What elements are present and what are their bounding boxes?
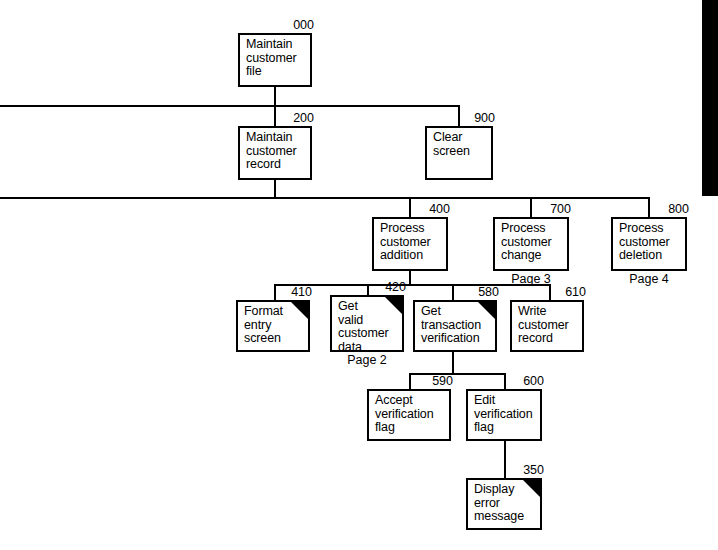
module-number-610: 610 bbox=[510, 286, 586, 299]
module-number-350: 350 bbox=[466, 464, 544, 477]
module-text-600: Edit verification flag bbox=[474, 394, 536, 435]
module-box-420[interactable]: Get valid customer data bbox=[330, 295, 404, 352]
structure-chart-canvas: 000Maintain customer file200Maintain cus… bbox=[0, 0, 718, 550]
connector-v-580-down bbox=[452, 352, 454, 373]
module-box-800[interactable]: Process customer deletion bbox=[611, 217, 687, 271]
module-number-400: 400 bbox=[372, 203, 450, 216]
module-number-590: 590 bbox=[367, 375, 453, 388]
page-reference-420: Page 2 bbox=[330, 354, 404, 367]
module-text-700: Process customer change bbox=[501, 222, 563, 263]
module-box-700[interactable]: Process customer change bbox=[493, 217, 569, 271]
module-box-580[interactable]: Get transaction verification bbox=[413, 300, 497, 352]
module-box-410[interactable]: Format entry screen bbox=[236, 300, 310, 352]
common-module-flag-icon-410 bbox=[291, 302, 308, 319]
module-text-900: Clear screen bbox=[433, 131, 487, 158]
module-box-350[interactable]: Display error message bbox=[466, 478, 542, 530]
connector-v-200-down bbox=[274, 180, 276, 197]
module-text-800: Process customer deletion bbox=[619, 222, 681, 263]
page-edge-bar bbox=[702, 0, 718, 196]
page-reference-700: Page 3 bbox=[493, 273, 569, 286]
module-box-600[interactable]: Edit verification flag bbox=[466, 389, 542, 441]
module-text-590: Accept verification flag bbox=[375, 394, 445, 435]
module-text-400: Process customer addition bbox=[380, 222, 442, 263]
module-number-200: 200 bbox=[238, 112, 314, 125]
module-number-900: 900 bbox=[425, 112, 495, 125]
module-number-700: 700 bbox=[493, 203, 571, 216]
module-text-610: Write customer record bbox=[518, 305, 578, 346]
module-box-200[interactable]: Maintain customer record bbox=[238, 126, 312, 180]
connector-bus-level3 bbox=[0, 197, 650, 199]
common-module-flag-icon-420 bbox=[385, 297, 402, 314]
module-number-410: 410 bbox=[236, 286, 312, 299]
connector-bus-level2 bbox=[0, 105, 459, 107]
module-box-000[interactable]: Maintain customer file bbox=[238, 33, 312, 87]
module-box-610[interactable]: Write customer record bbox=[510, 300, 584, 352]
common-module-flag-icon-350 bbox=[523, 480, 540, 497]
module-box-900[interactable]: Clear screen bbox=[425, 126, 493, 180]
common-module-flag-icon-580 bbox=[478, 302, 495, 319]
module-box-590[interactable]: Accept verification flag bbox=[367, 389, 451, 441]
connector-v-400-down bbox=[409, 271, 411, 284]
module-number-580: 580 bbox=[413, 286, 499, 299]
module-number-800: 800 bbox=[611, 203, 689, 216]
module-number-600: 600 bbox=[466, 375, 544, 388]
module-text-000: Maintain customer file bbox=[246, 38, 306, 79]
module-number-420: 420 bbox=[330, 281, 406, 294]
module-number-000: 000 bbox=[238, 19, 314, 32]
page-reference-800: Page 4 bbox=[611, 273, 687, 286]
module-box-400[interactable]: Process customer addition bbox=[372, 217, 448, 271]
module-text-200: Maintain customer record bbox=[246, 131, 306, 172]
